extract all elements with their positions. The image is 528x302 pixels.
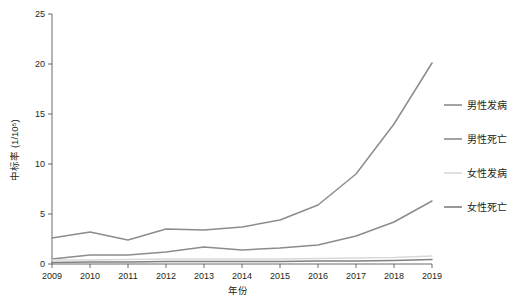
y-tick-label: 10 <box>35 159 45 169</box>
y-axis-tick-labels: 0510152025 <box>35 9 45 269</box>
x-tick-label: 2019 <box>422 271 442 281</box>
y-tick-marks <box>48 14 52 264</box>
x-tick-label: 2013 <box>194 271 214 281</box>
legend-label: 男性发病 <box>467 99 507 111</box>
y-axis-title: 中标率 (1/10⁵) <box>9 119 20 180</box>
legend-label: 男性死亡 <box>467 133 507 145</box>
x-tick-marks <box>52 264 432 268</box>
line-chart: 0510152025 20092010201120122013201420152… <box>0 0 528 302</box>
x-axis-title: 年份 <box>228 285 248 296</box>
x-tick-label: 2010 <box>80 271 100 281</box>
chart-canvas: 0510152025 20092010201120122013201420152… <box>0 0 528 302</box>
series-lines <box>52 63 432 263</box>
x-tick-label: 2015 <box>270 271 290 281</box>
x-tick-label: 2011 <box>118 271 137 281</box>
series-line-3 <box>52 256 432 260</box>
x-tick-label: 2012 <box>156 271 176 281</box>
x-tick-label: 2009 <box>42 271 62 281</box>
legend-item: 男性发病 <box>444 99 507 111</box>
legend-label: 女性死亡 <box>467 201 507 213</box>
legend-item: 男性死亡 <box>444 133 507 145</box>
x-tick-label: 2018 <box>384 271 404 281</box>
legend-item: 女性发病 <box>444 167 507 179</box>
series-line-2 <box>52 201 432 259</box>
y-tick-label: 25 <box>35 9 45 19</box>
x-tick-label: 2016 <box>308 271 328 281</box>
x-axis-tick-labels: 2009201020112012201320142015201620172018… <box>42 271 442 281</box>
legend-item: 女性死亡 <box>444 201 507 213</box>
series-line-1 <box>52 63 432 240</box>
legend-label: 女性发病 <box>467 167 507 179</box>
x-tick-label: 2014 <box>232 271 252 281</box>
y-tick-label: 20 <box>35 59 45 69</box>
y-tick-label: 0 <box>40 259 45 269</box>
x-tick-label: 2017 <box>346 271 366 281</box>
y-tick-label: 5 <box>40 209 45 219</box>
chart-legend: 男性发病男性死亡女性发病女性死亡 <box>444 99 507 213</box>
y-tick-label: 15 <box>35 109 45 119</box>
